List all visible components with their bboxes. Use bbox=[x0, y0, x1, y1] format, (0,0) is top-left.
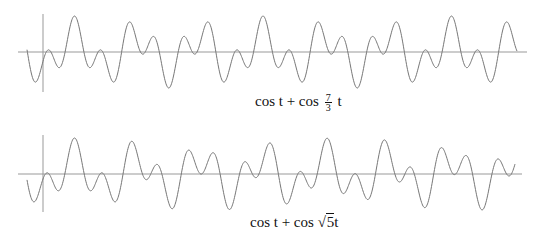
bottom-plot bbox=[18, 135, 522, 212]
bottom-caption-t: t bbox=[334, 214, 338, 230]
plots-canvas bbox=[0, 0, 543, 239]
top-caption-text: cos t + cos bbox=[255, 93, 323, 109]
sqrt-symbol: √ bbox=[318, 214, 326, 230]
bottom-caption: cos t + cos √5t bbox=[250, 214, 339, 231]
top-caption-t: t bbox=[334, 93, 342, 109]
top-caption: cos t + cos 73 t bbox=[255, 93, 342, 112]
fraction: 73 bbox=[325, 93, 332, 112]
top-plot bbox=[18, 14, 527, 92]
bottom-caption-text: cos t + cos bbox=[250, 214, 318, 230]
fraction-denominator: 3 bbox=[326, 103, 331, 112]
